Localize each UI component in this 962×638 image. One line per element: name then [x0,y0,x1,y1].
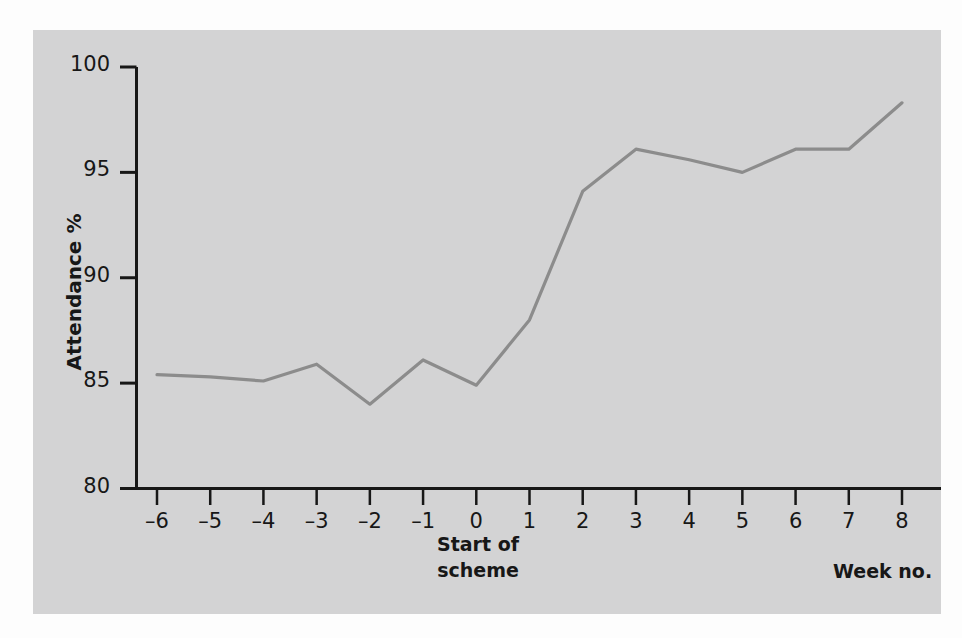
x-axis-tick-label: –1 [403,509,443,533]
x-axis-tick-label: 5 [722,509,762,533]
x-axis-title: Week no. [833,560,932,582]
start-of-scheme-line2: scheme [428,558,528,584]
x-axis-tick-label: –4 [243,509,283,533]
x-axis-tick-label: –5 [190,509,230,533]
x-axis-tick-label: 4 [669,509,709,533]
y-axis-ticks [120,67,137,489]
x-axis-ticks [157,489,902,506]
x-axis-tick-label: –3 [297,509,337,533]
x-axis-tick-label: 2 [563,509,603,533]
y-axis-tick-label: 80 [50,474,110,498]
x-axis-tick-label: 0 [456,509,496,533]
y-axis-tick-label: 100 [50,52,110,76]
attendance-line-series [157,103,902,404]
x-axis-tick-label: –6 [137,509,177,533]
chart-figure: 80859095100 –6–5–4–3–2–1012345678 Attend… [0,0,962,638]
x-axis-tick-label: –2 [350,509,390,533]
x-axis-tick-label: 8 [882,509,922,533]
x-axis-tick-label: 3 [616,509,656,533]
x-axis-tick-label: 6 [776,509,816,533]
y-axis-tick-label: 95 [50,157,110,181]
x-axis-tick-label: 1 [510,509,550,533]
start-of-scheme-line1: Start of [428,532,528,558]
y-axis-title: Attendance % [62,212,86,372]
x-axis-tick-label: 7 [829,509,869,533]
start-of-scheme-annotation: Start of scheme [428,532,528,583]
